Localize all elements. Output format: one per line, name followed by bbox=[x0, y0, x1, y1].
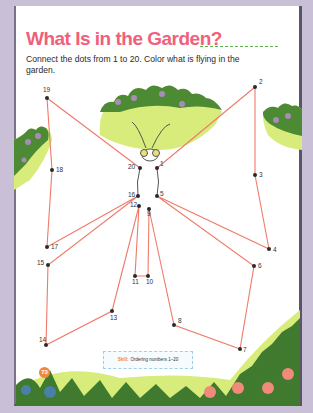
skill-text: Ordering numbers 1–20 bbox=[131, 357, 179, 362]
instructions: Connect the dots from 1 to 20. Color wha… bbox=[26, 54, 246, 75]
dot-label-4: 4 bbox=[273, 246, 277, 253]
dot-label-5: 5 bbox=[160, 190, 164, 197]
dot-label-6: 6 bbox=[258, 262, 262, 269]
dot-2 bbox=[253, 85, 257, 89]
dot-label-14: 14 bbox=[39, 336, 47, 343]
bush-left bbox=[14, 126, 52, 190]
page-number: 73 bbox=[39, 367, 50, 378]
dot-14 bbox=[44, 343, 48, 347]
dot-label-10: 10 bbox=[146, 278, 154, 285]
dot-15 bbox=[46, 263, 50, 267]
dot-6 bbox=[252, 264, 256, 268]
dot-label-3: 3 bbox=[259, 171, 263, 178]
dot-7 bbox=[238, 347, 242, 351]
dot-label-16: 16 bbox=[128, 191, 136, 198]
dot-label-15: 15 bbox=[37, 259, 45, 266]
dot-13 bbox=[110, 309, 114, 313]
dot-16 bbox=[136, 194, 140, 198]
dot-label-9: 9 bbox=[147, 210, 151, 217]
dot-label-20: 20 bbox=[128, 163, 136, 170]
dot-12 bbox=[137, 204, 141, 208]
bush-right bbox=[263, 103, 302, 150]
skill-box: Skill:Ordering numbers 1–20 bbox=[103, 351, 193, 369]
dot-label-7: 7 bbox=[243, 346, 247, 353]
dot-19 bbox=[45, 96, 49, 100]
dot-20 bbox=[138, 166, 142, 170]
dot-1 bbox=[155, 166, 159, 170]
dot-5 bbox=[155, 194, 159, 198]
dot-label-1: 1 bbox=[160, 160, 164, 167]
dot-8 bbox=[172, 323, 176, 327]
page-title: What Is in the Garden? bbox=[26, 28, 222, 50]
title-underline bbox=[200, 46, 278, 47]
skill-label: Skill: bbox=[118, 357, 129, 362]
dot-4 bbox=[267, 247, 271, 251]
dot-label-13: 13 bbox=[110, 314, 118, 321]
dot-label-19: 19 bbox=[43, 86, 51, 93]
dot-3 bbox=[253, 173, 257, 177]
dot-18 bbox=[50, 168, 54, 172]
dot-label-11: 11 bbox=[132, 278, 139, 285]
dot-label-18: 18 bbox=[56, 166, 64, 173]
dot-label-17: 17 bbox=[51, 243, 59, 250]
dot-label-8: 8 bbox=[178, 317, 182, 324]
dot-17 bbox=[45, 245, 49, 249]
dot-label-2: 2 bbox=[259, 78, 263, 85]
dot-label-12: 12 bbox=[130, 201, 138, 208]
